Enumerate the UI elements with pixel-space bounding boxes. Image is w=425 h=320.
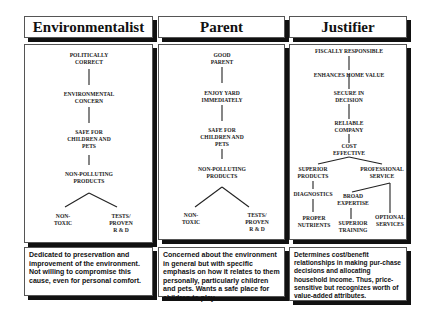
node-environmental-concern: ENVIRONMENTAL CONCERN [64,91,115,105]
node-safe-for-children: SAFE FOR CHILDREN AND PETS [67,129,110,149]
node-enhances-home-value: ENHANCES HOME VALUE [314,72,384,79]
node-politically-correct: POLITICALLY CORRECT [70,52,109,66]
node-tests-proven: TESTS/ PROVEN R & D [245,212,269,232]
environmentalist-header: Environmentalist [24,16,153,38]
node-broad-expertise: BROAD EXPERTISE [337,193,369,207]
justifier-description: Determines cost/benefit relationships in… [289,247,407,301]
node-tests-proven: TESTS/ PROVEN R & D [109,213,133,233]
environmentalist-title: Environmentalist [33,19,144,36]
node-cost-effective: COST EFFECTIVE [333,143,365,157]
node-safe-for-children: SAFE FOR CHILDREN AND PETS [200,127,243,147]
parent-title: Parent [200,19,243,36]
node-proper-nutrients: PROPER NUTRIENTS [298,215,331,229]
node-optional-services: OPTIONAL SERVICES [375,214,405,228]
justifier-diagram: FISCALLY RESPONSIBLE ENHANCES HOME VALUE… [289,44,407,240]
environmentalist-diagram: POLITICALLY CORRECT ENVIRONMENTAL CONCER… [24,44,153,243]
node-superior-training: SUPERIOR TRAINING [339,220,368,234]
justifier-header: Justifier [289,16,407,38]
node-non-toxic: NON- TOXIC [182,212,200,226]
node-superior-products: SUPERIOR PRODUCTS [298,166,329,180]
environmentalist-description: Dedicated to preservation and improvemen… [24,247,153,296]
node-non-toxic: NON- TOXIC [54,213,72,227]
node-professional-service: PROFESSIONAL SERVICE [360,166,404,180]
node-non-polluting: NON-POLLUTING PRODUCTS [198,166,246,180]
node-secure-in-decision: SECURE IN DECISION [334,90,364,104]
node-enjoy-yard: ENJOY YARD IMMEDIATELY [201,90,242,104]
parent-diagram: GOOD PARENT ENJOY YARD IMMEDIATELY SAFE … [158,44,285,240]
node-fiscally-responsible: FISCALLY RESPONSIBLE [315,48,383,55]
parent-header: Parent [158,16,285,38]
node-reliable-company: RELIABLE COMPANY [335,120,364,134]
node-non-polluting: NON-POLLUTING PRODUCTS [65,171,113,185]
justifier-title: Justifier [321,19,374,36]
node-good-parent: GOOD PARENT [211,52,234,66]
node-diagnostics: DIAGNOSTICS [293,191,332,198]
parent-description: Concerned about the environment in gener… [158,247,285,297]
